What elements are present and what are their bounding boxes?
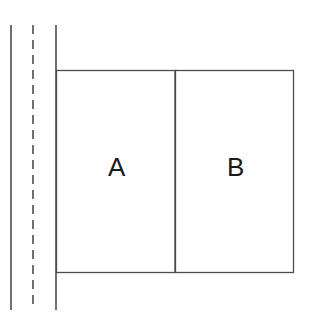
diagram-canvas: A B xyxy=(0,0,318,332)
room-a-label: A xyxy=(108,152,126,182)
diagram-svg: A B xyxy=(0,0,318,332)
room-b-label: B xyxy=(227,152,245,182)
